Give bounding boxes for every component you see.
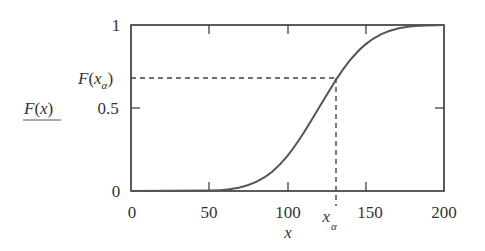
svg-text:α: α xyxy=(331,220,337,232)
x-tick-label-0: 0 xyxy=(128,203,137,222)
x-tick-label-150: 150 xyxy=(357,203,383,222)
x-tick-label-100: 100 xyxy=(275,203,301,222)
svg-text:x: x xyxy=(321,207,330,226)
dashed-guides xyxy=(131,78,336,206)
x-tick-label-50: 50 xyxy=(201,203,218,222)
y-axis-label: F(x) xyxy=(23,99,61,120)
x-axis-label: x xyxy=(283,223,292,242)
svg-text:F(x): F(x) xyxy=(23,99,53,118)
y-tick-label-0-5: 0.5 xyxy=(97,99,118,118)
f-x-alpha-label: F(xα) xyxy=(77,69,113,91)
x-ticks-top xyxy=(209,25,366,34)
svg-text:F(xα): F(xα) xyxy=(77,69,113,91)
cdf-curve xyxy=(131,25,444,191)
x-tick-label-200: 200 xyxy=(431,203,457,222)
plot-frame xyxy=(131,25,444,191)
y-tick-label-0: 0 xyxy=(112,182,121,201)
y-tick-label-1: 1 xyxy=(112,16,121,35)
chart-canvas: 1 0.5 0 0 50 100 150 200 x x α F(xα) F(x… xyxy=(0,0,485,251)
x-alpha-label: x α xyxy=(321,207,337,232)
